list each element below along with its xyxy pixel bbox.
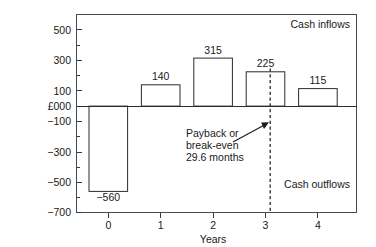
chart-canvas: 500 300 100 −100 −300 −500 −700 £000 −56… bbox=[0, 0, 376, 247]
x-tick-label-3: 3 bbox=[263, 219, 269, 231]
bar-label-year-3: 225 bbox=[257, 57, 275, 69]
y-axis-unit-label: £000 bbox=[48, 100, 72, 112]
bar-label-year-4: 115 bbox=[310, 74, 327, 86]
cash-flow-chart: 500 300 100 −100 −300 −500 −700 £000 −56… bbox=[0, 0, 376, 247]
y-tick-label-minus-700: −700 bbox=[47, 206, 71, 218]
y-axis-major-ticks bbox=[77, 30, 82, 213]
bar-year-0 bbox=[89, 106, 128, 191]
y-tick-label-500: 500 bbox=[53, 24, 71, 36]
x-tick-label-0: 0 bbox=[105, 219, 111, 231]
y-tick-label-minus-100: −100 bbox=[47, 115, 71, 127]
bar-year-1 bbox=[141, 85, 180, 106]
y-axis-tick-labels: 500 300 100 −100 −300 −500 −700 bbox=[47, 24, 71, 219]
y-tick-label-minus-300: −300 bbox=[47, 146, 71, 158]
payback-annotation-line-1: Payback or bbox=[186, 127, 239, 139]
bar-year-4 bbox=[299, 89, 338, 107]
cash-outflows-label: Cash outflows bbox=[284, 178, 350, 190]
x-tick-label-4: 4 bbox=[315, 219, 321, 231]
bar-year-3 bbox=[246, 72, 285, 106]
payback-annotation-text: Payback or break-even 29.6 months bbox=[186, 127, 244, 163]
y-tick-label-minus-500: −500 bbox=[47, 176, 71, 188]
y-tick-label-100: 100 bbox=[53, 85, 71, 97]
payback-annotation-line-2: break-even bbox=[186, 139, 239, 151]
x-axis-ticks bbox=[108, 213, 318, 218]
bar-label-year-0: −560 bbox=[96, 191, 120, 203]
payback-annotation-line-3: 29.6 months bbox=[186, 151, 244, 163]
cash-inflows-label: Cash inflows bbox=[290, 18, 350, 30]
x-axis-tick-labels: 0 1 2 3 4 bbox=[105, 219, 321, 231]
bar-label-year-1: 140 bbox=[152, 70, 170, 82]
x-axis-title: Years bbox=[200, 233, 226, 245]
bar-label-year-2: 315 bbox=[204, 44, 222, 56]
y-tick-label-300: 300 bbox=[53, 54, 71, 66]
bar-series bbox=[89, 58, 337, 191]
bar-year-2 bbox=[194, 58, 233, 106]
x-tick-label-2: 2 bbox=[210, 219, 216, 231]
x-tick-label-1: 1 bbox=[158, 219, 164, 231]
